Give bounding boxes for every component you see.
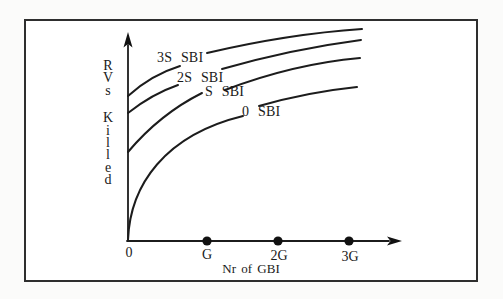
xtick-3g: 3G xyxy=(341,250,358,264)
plot-svg xyxy=(0,0,503,299)
curve-3s-sbi-right xyxy=(207,29,362,53)
series-label-s-sbi: S SBI xyxy=(205,85,244,99)
axis-dot-2g xyxy=(273,236,282,245)
y-axis-title: R V s K i l l e d xyxy=(99,60,117,187)
xtick-0: 0 xyxy=(126,246,133,260)
curve-s-sbi-left xyxy=(128,93,202,152)
y-axis-letter: d xyxy=(105,174,112,186)
curve-3s-sbi-left xyxy=(128,66,180,96)
x-axis-title: Nr of GBI xyxy=(222,262,279,275)
series-label-0-sbi: 0 SBI xyxy=(242,105,280,119)
axis-dot-3g xyxy=(344,236,353,245)
xtick-g: G xyxy=(202,248,212,262)
series-label-3s-sbi: 3S SBI xyxy=(157,51,203,65)
axis-dot-g xyxy=(202,236,211,245)
series-label-2s-sbi: 2S SBI xyxy=(177,71,223,85)
y-axis-letter: s xyxy=(105,85,110,97)
